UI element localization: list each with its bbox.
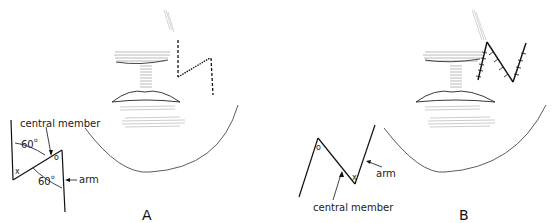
central-member-line-b bbox=[318, 138, 355, 184]
lip-line-a bbox=[112, 100, 180, 102]
nose-shading-b bbox=[423, 52, 483, 62]
nose-shading-a bbox=[114, 52, 170, 64]
arm-right-a bbox=[62, 150, 65, 212]
lower-lip-shading-a bbox=[120, 106, 185, 127]
jaw-line-b bbox=[384, 105, 546, 172]
vertex-x-a: x bbox=[15, 167, 20, 176]
arrowhead-central-b bbox=[339, 171, 344, 177]
philtrum-a bbox=[140, 66, 152, 87]
label-central-member-a: central member bbox=[20, 118, 101, 129]
z-diagram-b: central member arm o x bbox=[299, 125, 396, 213]
lower-lip-shading-b bbox=[425, 106, 495, 127]
panel-label-a: A bbox=[142, 207, 152, 223]
diagram-canvas: central member arm 60 o 60 o x o A bbox=[0, 0, 555, 223]
label-angle-bottom-a: 60 bbox=[38, 176, 51, 187]
vertex-x-b: x bbox=[352, 173, 357, 182]
z-plasty-incision-a bbox=[178, 40, 213, 95]
sutured-flaps-b bbox=[478, 42, 526, 82]
nose-tip-shading-b bbox=[472, 10, 486, 40]
degree-top-a: o bbox=[34, 136, 38, 143]
lip-line-b bbox=[416, 100, 495, 102]
face-a bbox=[85, 10, 238, 172]
label-central-member-b: central member bbox=[313, 202, 394, 213]
nose-tip-shading-a bbox=[164, 10, 174, 32]
arm-right-b bbox=[355, 125, 375, 184]
vertex-o-a: o bbox=[54, 153, 59, 162]
face-b bbox=[384, 10, 546, 172]
pointer-arm-b bbox=[369, 162, 382, 167]
jaw-line-a bbox=[85, 105, 238, 172]
arrowhead-arm-b bbox=[366, 160, 371, 164]
label-angle-top-a: 60 bbox=[21, 139, 34, 150]
vertex-o-b: o bbox=[316, 143, 321, 152]
label-arm-b: arm bbox=[376, 168, 396, 179]
arm-left-a bbox=[11, 120, 13, 180]
philtrum-b bbox=[450, 66, 462, 87]
degree-bottom-a: o bbox=[51, 173, 55, 180]
label-arm-a: arm bbox=[79, 174, 99, 185]
arrowhead-central-a bbox=[49, 150, 53, 156]
panel-label-b: B bbox=[459, 207, 469, 223]
arrowhead-arm-a bbox=[65, 178, 70, 182]
pointer-central-member-b bbox=[333, 174, 341, 200]
pointer-central-member-a bbox=[46, 127, 51, 154]
